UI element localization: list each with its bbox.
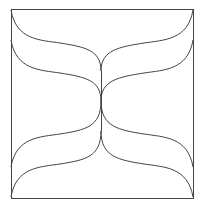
curve-top-right-lower [101, 40, 193, 101]
curve-bottom-right-lower [101, 131, 193, 197]
square-frame [12, 10, 194, 199]
curve-top-right-upper [101, 10, 193, 71]
diagram-canvas [0, 0, 203, 205]
curve-top-left-upper [11, 10, 101, 71]
pattern-svg [0, 0, 203, 205]
curve-bottom-left-lower [11, 131, 101, 197]
